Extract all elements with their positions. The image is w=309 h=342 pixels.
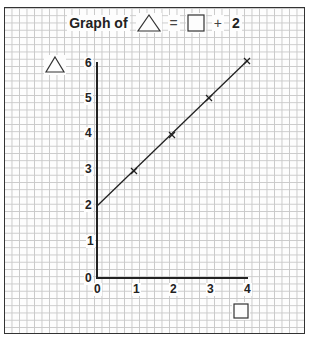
y-tick-1: 1: [86, 235, 95, 248]
marker-4-6: [244, 58, 250, 64]
y-tick-5: 5: [84, 92, 93, 105]
x-tick-1: 1: [132, 283, 141, 296]
marker-1-3: [131, 168, 137, 174]
x-tick-4: 4: [243, 283, 252, 296]
marker-3-5: [206, 95, 212, 101]
x-tick-0: 0: [93, 283, 102, 296]
y-tick-2: 2: [84, 199, 93, 212]
y-tick-0: 0: [84, 272, 93, 285]
data-line: [97, 61, 247, 206]
y-axis-triangle-icon: [44, 55, 66, 75]
y-tick-3: 3: [84, 163, 93, 176]
y-tick-4: 4: [84, 127, 93, 140]
x-tick-2: 2: [169, 283, 178, 296]
y-tick-6: 6: [84, 57, 93, 70]
x-axis-square-icon: [232, 302, 250, 320]
plot-area: [0, 0, 309, 342]
x-tick-3: 3: [206, 283, 215, 296]
